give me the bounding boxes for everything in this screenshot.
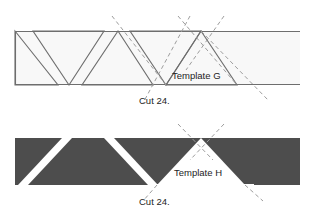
cut-g-label: Cut 24. — [139, 95, 170, 106]
guide-h-b2 — [245, 185, 263, 201]
template-g-label: Template G — [172, 70, 221, 81]
cutting-diagram-figure: Template G Cut 24. — [0, 0, 316, 216]
diagram-canvas: Template G Cut 24. — [0, 0, 316, 216]
cut-h-label: Cut 24. — [139, 196, 170, 207]
strip-g-band — [15, 31, 300, 85]
strip-h-group: Template H Cut 24. — [15, 124, 300, 207]
strip-h-cutout-3 — [148, 184, 254, 186]
strip-g-group: Template G Cut 24. — [15, 16, 300, 106]
template-h-label: Template H — [174, 167, 222, 178]
